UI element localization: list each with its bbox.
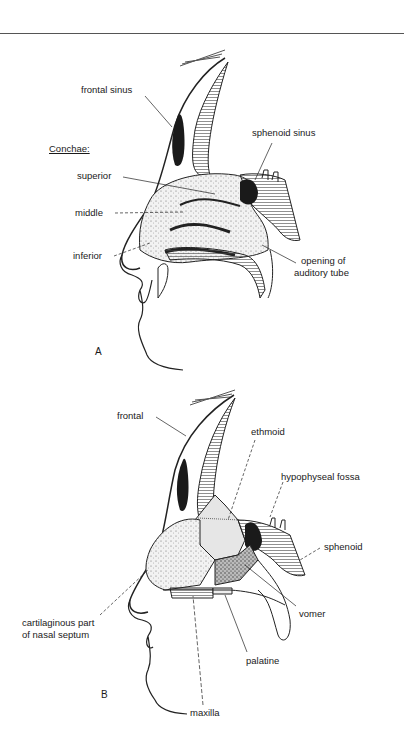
- label-cartilaginous-line1: cartilaginous part: [22, 617, 94, 628]
- panel-a-drawing: [114, 50, 300, 370]
- label-vomer: vomer: [299, 608, 325, 619]
- label-conchae-heading: Conchae:: [49, 143, 90, 154]
- panel-a-label: A: [95, 346, 102, 357]
- label-opening-line1: opening of: [301, 255, 345, 266]
- label-cartilaginous-line2: of nasal septum: [22, 629, 89, 640]
- label-frontal-sinus: frontal sinus: [81, 84, 132, 95]
- label-sphenoid: sphenoid: [324, 541, 363, 552]
- label-middle: middle: [75, 207, 103, 218]
- label-superior: superior: [77, 170, 111, 181]
- label-maxilla: maxilla: [190, 707, 220, 718]
- label-sphenoid-sinus: sphenoid sinus: [252, 127, 315, 138]
- label-palatine: palatine: [246, 655, 279, 666]
- label-frontal: frontal: [117, 410, 143, 421]
- panel-b-label: B: [101, 689, 108, 700]
- panel-b-drawing: [100, 390, 320, 714]
- label-hypophyseal-fossa: hypophyseal fossa: [281, 471, 360, 482]
- label-opening-line2: auditory tube: [294, 267, 349, 278]
- label-ethmoid: ethmoid: [251, 426, 285, 437]
- label-inferior: inferior: [73, 250, 102, 261]
